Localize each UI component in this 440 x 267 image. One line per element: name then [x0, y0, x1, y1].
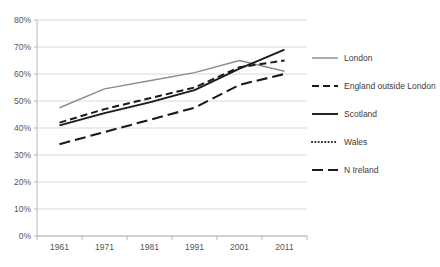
- line-chart: 0%10%20%30%40%50%60%70%80% 1961197119811…: [0, 0, 440, 267]
- legend-label-n-ireland: N Ireland: [344, 165, 379, 175]
- y-axis-tick-labels: 0%10%20%30%40%50%60%70%80%: [14, 15, 31, 241]
- x-tick-label: 1961: [50, 242, 69, 252]
- y-tick-label: 50%: [14, 96, 31, 106]
- chart-canvas: 0%10%20%30%40%50%60%70%80% 1961197119811…: [0, 0, 440, 267]
- chart-background: [0, 0, 440, 267]
- legend-label-scotland: Scotland: [344, 109, 377, 119]
- y-tick-label: 80%: [14, 15, 31, 25]
- legend-label-london: London: [344, 53, 373, 63]
- y-tick-label: 10%: [14, 204, 31, 214]
- y-tick-label: 0%: [19, 231, 32, 241]
- y-tick-label: 40%: [14, 123, 31, 133]
- x-tick-label: 1991: [185, 242, 204, 252]
- x-tick-label: 1971: [95, 242, 114, 252]
- y-tick-label: 20%: [14, 177, 31, 187]
- x-tick-label: 1981: [140, 242, 159, 252]
- legend-label-england-outside-london: England outside London: [344, 81, 436, 91]
- x-tick-label: 2011: [275, 242, 294, 252]
- y-tick-label: 70%: [14, 42, 31, 52]
- x-tick-label: 2001: [230, 242, 249, 252]
- legend-label-wales: Wales: [344, 137, 367, 147]
- y-tick-label: 60%: [14, 69, 31, 79]
- y-tick-label: 30%: [14, 150, 31, 160]
